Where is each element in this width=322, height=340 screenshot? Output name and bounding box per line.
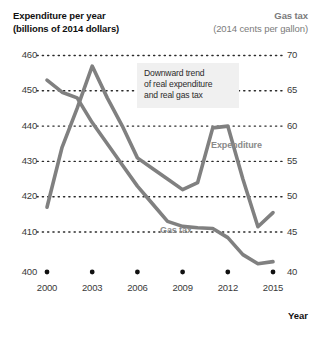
x-axis-tick-2000: 2000 bbox=[27, 282, 67, 293]
series-label-gas-tax: Gas tax bbox=[160, 225, 192, 235]
callout-line-3: and real gas tax bbox=[144, 90, 233, 101]
x-axis-title: Year bbox=[288, 310, 308, 321]
callout-line-2: of real expenditure bbox=[144, 79, 233, 90]
y-axis-tick-left-400: 400 bbox=[11, 266, 37, 277]
y-axis-tick-right-40: 40 bbox=[287, 266, 313, 277]
y-axis-tick-right-70: 70 bbox=[287, 49, 313, 60]
y-axis-tick-right-50: 50 bbox=[287, 190, 313, 201]
y-axis-tick-right-55: 55 bbox=[287, 155, 313, 166]
callout-line-1: Downward trend bbox=[144, 68, 233, 79]
x-axis-tick-2015: 2015 bbox=[253, 282, 293, 293]
chart-figure: Expenditure per year (billions of 2014 d… bbox=[0, 0, 322, 340]
y-axis-tick-right-65: 65 bbox=[287, 84, 313, 95]
y-axis-tick-left-450: 450 bbox=[11, 84, 37, 95]
y-axis-tick-left-460: 460 bbox=[11, 49, 37, 60]
x-axis-tick-2003: 2003 bbox=[72, 282, 112, 293]
callout-annotation: Downward trend of real expenditure and r… bbox=[137, 63, 239, 108]
y-axis-tick-left-410: 410 bbox=[11, 226, 37, 237]
x-axis-tick-2006: 2006 bbox=[117, 282, 157, 293]
y-axis-tick-left-440: 440 bbox=[11, 120, 37, 131]
y-axis-tick-right-60: 60 bbox=[287, 120, 313, 131]
y-axis-tick-left-420: 420 bbox=[11, 190, 37, 201]
series-label-expenditure: Expenditure bbox=[211, 140, 262, 150]
x-axis-tick-2012: 2012 bbox=[208, 282, 248, 293]
x-axis-tick-2009: 2009 bbox=[163, 282, 203, 293]
y-axis-tick-left-430: 430 bbox=[11, 155, 37, 166]
y-axis-tick-right-45: 45 bbox=[287, 226, 313, 237]
x-axis-dot-markers bbox=[45, 270, 276, 275]
